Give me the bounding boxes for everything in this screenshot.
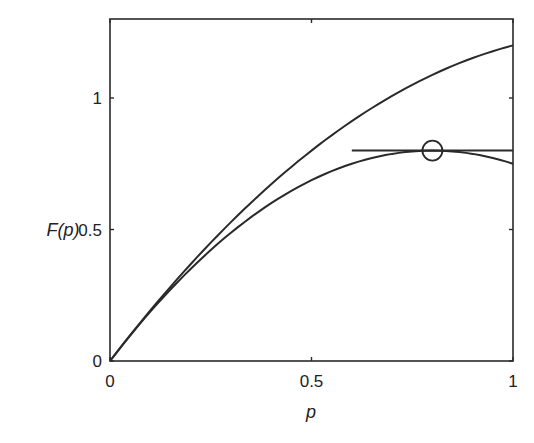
chart: 00.5100.51 p F(p): [0, 0, 534, 443]
y-tick-label: 1: [93, 89, 102, 108]
x-axis-label: p: [305, 402, 316, 422]
x-tick-label: 0.5: [300, 372, 324, 391]
y-tick-label: 0: [93, 352, 102, 371]
y-axis-label: F(p): [47, 220, 80, 240]
x-tick-label: 1: [508, 372, 517, 391]
tick-labels: 00.5100.51: [78, 89, 517, 391]
lower-curve: [110, 151, 513, 361]
x-tick-label: 0: [105, 372, 114, 391]
curves: [110, 45, 513, 361]
y-tick-label: 0.5: [78, 221, 102, 240]
plot-area: [110, 19, 513, 361]
axis-ticks: [110, 19, 513, 361]
upper-curve: [110, 45, 513, 361]
